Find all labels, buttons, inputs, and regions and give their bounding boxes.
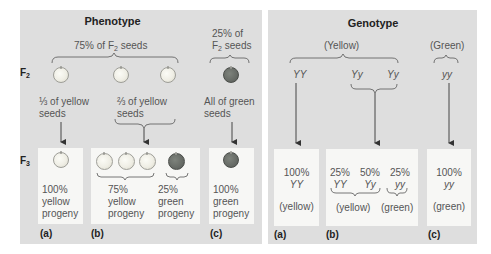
brace-genotype-b-green xyxy=(387,188,407,196)
brace-genotype-green xyxy=(434,55,458,63)
brace-Yy-pair xyxy=(351,84,397,93)
connector-lines xyxy=(0,0,491,254)
brace-genotype-b-yellow xyxy=(331,188,380,196)
brace-b-green-progeny xyxy=(166,173,188,180)
brace-b-yellow-progeny xyxy=(97,173,154,180)
brace-yellow-f2 xyxy=(52,53,178,63)
brace-genotype-yellow xyxy=(290,54,398,63)
brace-b-desc xyxy=(115,119,175,128)
brace-green-f2 xyxy=(210,55,249,63)
